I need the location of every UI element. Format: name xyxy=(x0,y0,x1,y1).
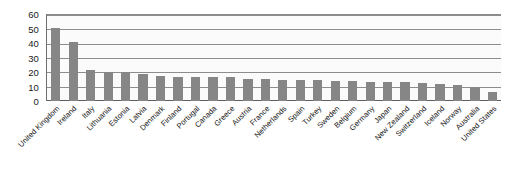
bar xyxy=(313,80,322,101)
x-axis-slot: Latvia xyxy=(134,102,152,179)
bar xyxy=(400,82,409,101)
bar xyxy=(191,77,200,101)
bar-slot xyxy=(274,15,291,101)
bar-slot xyxy=(152,15,169,101)
bar-slot xyxy=(239,15,256,101)
bar xyxy=(453,85,462,101)
bar-slot xyxy=(396,15,413,101)
y-axis-tick-label: 30 xyxy=(28,52,39,63)
x-axis-slot: United States xyxy=(484,102,502,179)
bar xyxy=(296,80,305,102)
bars-layer xyxy=(47,15,501,101)
y-axis-tick-label: 40 xyxy=(28,38,39,49)
bar xyxy=(331,81,340,101)
bar-slot xyxy=(257,15,274,101)
bar-slot xyxy=(414,15,431,101)
bar-slot xyxy=(222,15,239,101)
bar xyxy=(470,87,479,101)
y-axis-tick-label: 10 xyxy=(28,81,39,92)
x-axis-slot: Turkey xyxy=(309,102,327,179)
x-axis-slot: Ireland xyxy=(64,102,82,179)
bar-slot xyxy=(82,15,99,101)
bar xyxy=(348,81,357,101)
bar-slot xyxy=(309,15,326,101)
x-axis-tick-label: United Kingdom xyxy=(16,104,61,149)
bar-slot xyxy=(64,15,81,101)
bar-slot xyxy=(449,15,466,101)
bar-slot xyxy=(361,15,378,101)
bar-slot xyxy=(169,15,186,101)
bar xyxy=(86,70,95,101)
x-axis: United KingdomIrelandItalyLithuaniaEston… xyxy=(46,102,501,179)
bar-slot xyxy=(117,15,134,101)
bar-slot xyxy=(204,15,221,101)
bar-slot xyxy=(327,15,344,101)
bar xyxy=(104,72,113,101)
bar-slot xyxy=(47,15,64,101)
x-axis-slot: Finland xyxy=(169,102,187,179)
bar xyxy=(418,83,427,101)
bar xyxy=(156,76,165,101)
x-axis-slot: Belgium xyxy=(344,102,362,179)
y-axis-tick-label: 20 xyxy=(28,67,39,78)
plot-area xyxy=(46,14,501,101)
y-axis: 0102030405060 xyxy=(0,14,44,101)
bar xyxy=(173,77,182,101)
x-axis-slot: Netherlands xyxy=(274,102,292,179)
bar-chart: 0102030405060 United KingdomIrelandItaly… xyxy=(0,0,517,179)
x-axis-slot: Austria xyxy=(239,102,257,179)
bar xyxy=(488,92,497,101)
x-axis-slot: Switzerland xyxy=(414,102,432,179)
bar-slot xyxy=(344,15,361,101)
bar xyxy=(243,79,252,101)
bar-slot xyxy=(134,15,151,101)
bar-slot xyxy=(431,15,448,101)
bar xyxy=(226,77,235,101)
x-axis-slot: Lithuania xyxy=(99,102,117,179)
bar-slot xyxy=(187,15,204,101)
bar xyxy=(51,28,60,101)
bar-slot xyxy=(484,15,501,101)
bar xyxy=(278,80,287,102)
x-axis-slot: Canada xyxy=(204,102,222,179)
bar xyxy=(121,72,130,101)
bar xyxy=(69,42,78,101)
bar xyxy=(366,82,375,101)
bar-slot xyxy=(292,15,309,101)
bar-slot xyxy=(466,15,483,101)
bar xyxy=(261,79,270,101)
bar-slot xyxy=(379,15,396,101)
bar xyxy=(138,74,147,101)
bar xyxy=(208,77,217,101)
bar xyxy=(435,84,444,101)
y-axis-tick-label: 0 xyxy=(34,96,39,107)
y-axis-tick-label: 50 xyxy=(28,23,39,34)
y-axis-tick-label: 60 xyxy=(28,9,39,20)
bar xyxy=(383,82,392,101)
bar-slot xyxy=(99,15,116,101)
